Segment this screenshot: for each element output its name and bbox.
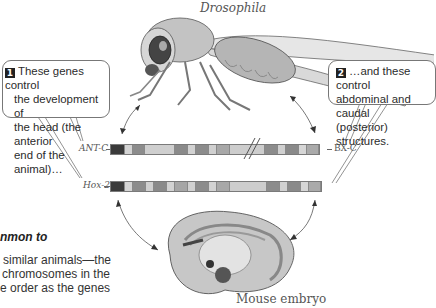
gene-segment <box>154 182 167 191</box>
gene-segment <box>145 145 175 154</box>
gene-segment <box>209 145 217 154</box>
gene-segment <box>111 145 125 154</box>
step-number-badge: 2 <box>336 68 346 78</box>
callout-anterior-line-1: 1These genes control <box>5 64 105 92</box>
bx-c-tick <box>327 149 332 150</box>
gene-segment <box>278 145 286 154</box>
gene-segment <box>111 182 125 191</box>
gene-segment <box>188 182 196 191</box>
gene-segment <box>167 182 175 191</box>
gene-segment <box>209 182 217 191</box>
gene-segment <box>196 182 209 191</box>
gene-segment <box>146 182 154 191</box>
callout-posterior: 2…and these control abdominal and caudal… <box>328 60 436 105</box>
gene-segment <box>267 182 280 191</box>
gene-segment <box>230 182 267 191</box>
side-text-heading: nmon to <box>0 230 47 244</box>
gene-segment <box>288 182 301 191</box>
hox-2-label: Hox-2 <box>83 180 110 190</box>
gene-segment <box>133 182 146 191</box>
gene-segment <box>196 145 209 154</box>
step-number-badge: 1 <box>5 68 15 78</box>
callout-posterior-line-1: 2…and these control <box>336 64 433 92</box>
gene-segment <box>125 182 133 191</box>
ant-c-label: ANT-C <box>79 143 108 153</box>
gene-segment <box>133 145 145 154</box>
callout-posterior-line-2: abdominal and caudal <box>336 92 433 120</box>
bx-c-label: BX-C <box>334 143 357 153</box>
gene-segment <box>217 145 230 154</box>
side-text-line-2: chromosomes in the <box>2 267 110 281</box>
gene-segment <box>301 182 309 191</box>
gene-segment <box>286 145 299 154</box>
gene-segment <box>230 145 265 154</box>
gene-segment <box>280 182 288 191</box>
callout-anterior: 1These genes control the development of … <box>2 60 110 118</box>
gene-segment <box>125 145 133 154</box>
drosophila-hom-c-chromosome <box>110 144 320 155</box>
callout-anterior-line-2: the development of <box>5 92 105 120</box>
gene-segment <box>175 145 188 154</box>
gene-segment <box>188 145 196 154</box>
mouse-hox-2-chromosome <box>110 181 322 192</box>
gene-segment <box>217 182 230 191</box>
side-text-line-3: e order as the genes <box>0 281 110 295</box>
gene-segment <box>309 182 321 191</box>
gene-segment <box>307 145 319 154</box>
gene-segment <box>299 145 307 154</box>
side-text-line-1: similar animals—the <box>3 253 111 267</box>
gene-segment <box>265 145 278 154</box>
mouse-embryo-label: Mouse embryo <box>236 292 326 306</box>
gene-segment <box>175 182 188 191</box>
